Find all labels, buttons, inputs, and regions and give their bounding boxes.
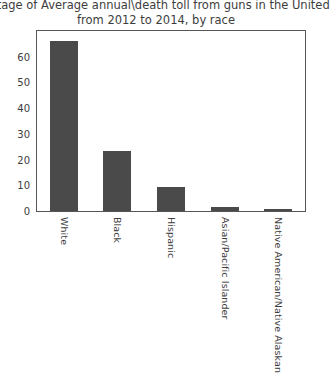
y-axis-tick-label: 0 [24, 206, 30, 217]
x-axis-tick-label: Asian/Pacific Islander [219, 217, 230, 320]
x-axis-labels: WhiteBlackHispanicAsian/Pacific Islander… [37, 213, 305, 361]
y-axis-tick-label: 60 [17, 51, 30, 62]
y-axis-tick-label: 30 [17, 128, 30, 139]
y-axis: 0102030405060 [0, 30, 34, 212]
bar [211, 207, 239, 211]
x-axis-tick: White [37, 213, 91, 361]
chart-title: entage of Average annual\death toll from… [0, 0, 312, 28]
x-axis-tick: Black [91, 213, 145, 361]
x-axis-tick-label: Hispanic [165, 217, 176, 258]
y-axis-tick-label: 10 [17, 180, 30, 191]
x-axis-tick-label: White [58, 217, 69, 245]
chart-title-line-2: from 2012 to 2014, by race [0, 13, 312, 28]
y-axis-tick-label: 50 [17, 77, 30, 88]
x-axis-tick-label: Native American/Native Alaskan [273, 217, 284, 373]
bar-series [37, 31, 305, 211]
y-axis-tick-label: 40 [17, 103, 30, 114]
x-axis-tick: Native American/Native Alaskan [251, 213, 305, 361]
y-axis-tick-label: 20 [17, 154, 30, 165]
chart-title-line-1: entage of Average annual\death toll from… [0, 0, 334, 13]
x-axis-tick: Asian/Pacific Islander [198, 213, 252, 361]
x-axis-tick-label: Black [112, 217, 123, 243]
bar [103, 151, 131, 211]
bar [50, 41, 78, 211]
bar [157, 187, 185, 211]
bar [264, 209, 292, 211]
x-axis-tick: Hispanic [144, 213, 198, 361]
